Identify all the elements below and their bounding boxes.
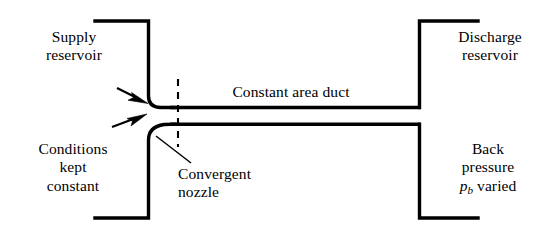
back-pressure-varied-text: varied: [473, 177, 516, 194]
label-supply-reservoir-line2: reservoir: [14, 46, 134, 64]
nozzle-schematic-figure: Supply reservoir Conditions kept constan…: [0, 0, 548, 234]
inlet-flow-arrow-lower: [112, 114, 147, 127]
label-supply-reservoir-line1: Supply: [14, 28, 134, 46]
label-constant-area-duct: Constant area duct: [206, 83, 376, 101]
label-back-pressure: Back pressure pb varied: [428, 140, 548, 197]
label-discharge-reservoir: Discharge reservoir: [432, 28, 548, 65]
label-back-pressure-line2: pressure: [428, 158, 548, 176]
label-back-pressure-line3: pb varied: [428, 177, 548, 197]
label-back-pressure-line1: Back: [428, 140, 548, 158]
convergent-nozzle-leader-line: [156, 136, 191, 163]
label-conditions-line1: Conditions: [8, 140, 138, 158]
label-conditions-kept-constant: Conditions kept constant: [8, 140, 138, 195]
label-supply-reservoir: Supply reservoir: [14, 28, 134, 65]
label-convergent-nozzle: Convergent nozzle: [178, 165, 308, 202]
label-conditions-line2: kept: [8, 158, 138, 176]
label-conditions-line3: constant: [8, 177, 138, 195]
label-constant-area-duct-text: Constant area duct: [206, 83, 376, 101]
label-discharge-reservoir-line1: Discharge: [432, 28, 548, 46]
inlet-flow-arrow-upper: [117, 88, 148, 104]
label-discharge-reservoir-line2: reservoir: [432, 46, 548, 64]
label-convergent-nozzle-line2: nozzle: [178, 183, 308, 201]
label-convergent-nozzle-line1: Convergent: [178, 165, 308, 183]
